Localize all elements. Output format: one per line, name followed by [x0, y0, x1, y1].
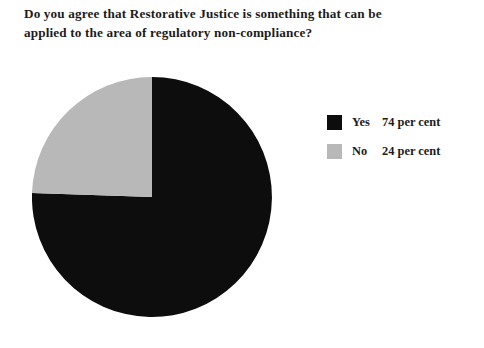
legend-label-yes: Yes — [352, 113, 370, 132]
pie-chart-graphic — [32, 77, 272, 317]
legend-label-no: No — [352, 142, 367, 161]
legend-swatch-yes — [327, 115, 342, 130]
legend-swatch-no — [327, 144, 342, 159]
legend-value-yes: 74 per cent — [382, 113, 440, 132]
chart-title-line-2: applied to the area of regulatory non-co… — [24, 23, 464, 42]
legend-row-no: No 24 per cent — [327, 142, 477, 171]
pie-chart-figure: Do you agree that Restorative Justice is… — [0, 0, 484, 348]
legend: Yes 74 per cent No 24 per cent — [327, 113, 477, 171]
legend-value-no: 24 per cent — [382, 142, 440, 161]
chart-title: Do you agree that Restorative Justice is… — [24, 4, 464, 42]
pie-slice-no — [32, 77, 152, 197]
chart-title-line-1: Do you agree that Restorative Justice is… — [24, 4, 464, 23]
pie-svg — [32, 77, 272, 317]
legend-row-yes: Yes 74 per cent — [327, 113, 477, 142]
